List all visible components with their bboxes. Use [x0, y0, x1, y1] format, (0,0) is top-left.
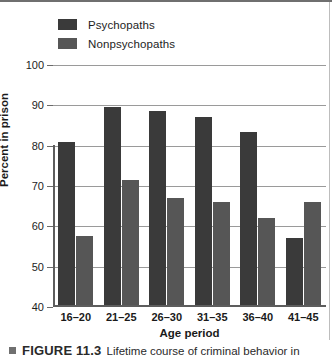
figure-caption: FIGURE 11.3 Lifetime course of criminal …: [9, 343, 326, 358]
x-axis-tick-label: 21–25: [103, 311, 139, 323]
bar: [104, 107, 121, 307]
x-axis-tick-label: 16–20: [58, 311, 94, 323]
chart-legend: Psychopaths Nonpsychopaths: [58, 15, 175, 53]
x-axis-line: [53, 305, 326, 307]
legend-swatch-icon: [58, 19, 77, 30]
bar-group: [149, 111, 184, 307]
legend-item-psychopaths: Psychopaths: [58, 15, 175, 34]
legend-item-label: Psychopaths: [88, 19, 155, 31]
bar-group: [104, 107, 139, 307]
x-axis-tick-label: 26–30: [149, 311, 185, 323]
figure-page: Psychopaths Nonpsychopaths Percent in pr…: [0, 0, 332, 360]
x-axis-title: Age period: [53, 327, 326, 339]
x-axis-tick-labels: 16–2021–2526–3031–3536–4041–45: [53, 311, 326, 323]
y-axis-tick-label: 70: [32, 180, 44, 192]
bar-group: [240, 132, 275, 307]
bar: [286, 238, 303, 307]
bar-group: [286, 202, 321, 307]
x-axis-tick-label: 36–40: [240, 311, 276, 323]
caption-text: Lifetime course of criminal behavior in: [107, 345, 300, 357]
y-axis-tick-label: 100: [26, 59, 44, 71]
y-axis-tick-label: 60: [32, 220, 44, 232]
bar-group: [195, 117, 230, 307]
y-axis-tick: [47, 307, 53, 308]
bar-groups: [53, 65, 326, 307]
legend-item-label: Nonpsychopaths: [88, 38, 175, 50]
bar: [258, 218, 275, 307]
page-right-rule: [329, 2, 330, 340]
x-axis-tick-label: 41–45: [285, 311, 321, 323]
bar-group: [58, 142, 93, 307]
bar: [149, 111, 166, 307]
bar: [58, 142, 75, 307]
bar: [76, 236, 93, 307]
figure-number: FIGURE 11.3: [22, 343, 102, 358]
x-axis-tick-label: 31–35: [194, 311, 230, 323]
bar: [304, 202, 321, 307]
y-axis-title: Percent in prison: [0, 93, 10, 187]
bar: [195, 117, 212, 307]
legend-swatch-icon: [58, 38, 77, 49]
y-axis-tick-label: 80: [32, 140, 44, 152]
square-bullet-icon: [9, 347, 16, 354]
bar: [167, 198, 184, 307]
bar: [213, 202, 230, 307]
y-axis-tick-label: 50: [32, 261, 44, 273]
y-axis-tick-label: 90: [32, 99, 44, 111]
plot-area: 405060708090100: [53, 65, 326, 307]
bar: [240, 132, 257, 307]
bar: [122, 180, 139, 307]
y-axis-tick-label: 40: [32, 301, 44, 313]
legend-item-nonpsychopaths: Nonpsychopaths: [58, 34, 175, 53]
y-axis-line: [53, 145, 55, 307]
